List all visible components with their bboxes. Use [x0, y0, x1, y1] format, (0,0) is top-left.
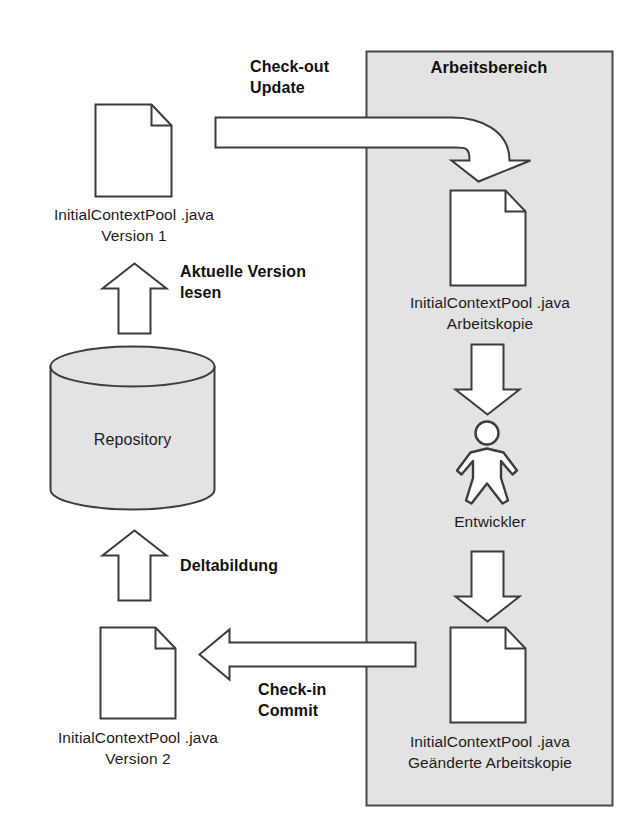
document-icon-version-1: [96, 105, 172, 197]
document-label-version-1-line1: InitialContextPool .java: [20, 205, 248, 225]
document-icon-modified-working-copy: [451, 628, 526, 723]
document-label-working-copy-line1: InitialContextPool .java: [374, 293, 606, 313]
workspace-title: Arbeitsbereich: [366, 57, 612, 78]
arrow-checkin-label-line2: Commit: [258, 701, 378, 721]
document-label-version-2-line2: Version 2: [22, 749, 254, 769]
arrow-checkout-label-line1: Check-out: [250, 57, 370, 77]
diagram-canvas: Arbeitsbereich Check-out Update InitialC…: [0, 0, 642, 837]
document-label-version-1-line2: Version 1: [20, 226, 248, 246]
document-label-modified-working-copy-line2: Geänderte Arbeitskopie: [372, 753, 608, 773]
arrow-delta-label: Deltabildung: [180, 556, 350, 576]
arrow-read-current-version-label-line1: Aktuelle Version: [180, 262, 350, 282]
document-icon-version-2: [101, 628, 176, 719]
arrow-read-current-version-shape: [103, 264, 167, 334]
developer-label: Entwickler: [395, 512, 585, 532]
arrow-checkin-label-line1: Check-in: [258, 680, 378, 700]
arrow-read-current-version-label-line2: lesen: [180, 283, 350, 303]
document-icon-working-copy: [451, 191, 526, 286]
repository-cylinder: [51, 347, 215, 510]
document-label-modified-working-copy-line1: InitialContextPool .java: [372, 732, 608, 752]
document-label-working-copy-line2: Arbeitskopie: [374, 314, 606, 334]
arrow-checkout-label-line2: Update: [250, 78, 370, 98]
repository-label: Repository: [50, 430, 215, 450]
arrow-delta-shape: [103, 531, 167, 601]
document-label-version-2-line1: InitialContextPool .java: [22, 728, 254, 748]
